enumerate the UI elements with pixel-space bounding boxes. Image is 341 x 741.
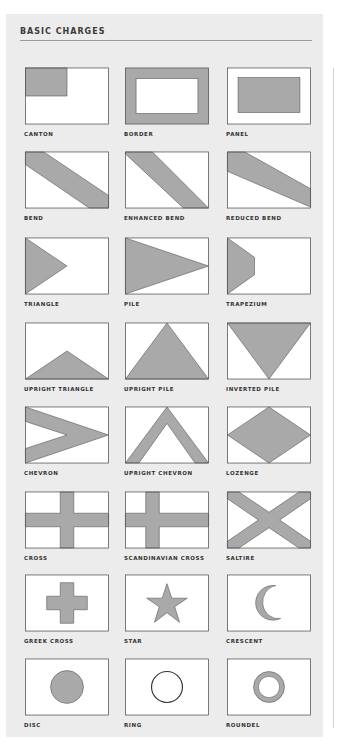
canton-flag-icon — [24, 67, 110, 125]
scandinavian-cross-flag-icon — [124, 491, 210, 549]
charge-label: INVERTED PILE — [226, 386, 314, 392]
charge-upright-triangle: UPRIGHT TRIANGLE — [24, 322, 112, 392]
charge-border: BORDER — [124, 67, 212, 137]
charge-cross: CROSS — [24, 491, 112, 561]
charge-label: PILE — [124, 301, 212, 307]
charge-label: UPRIGHT TRIANGLE — [24, 386, 112, 392]
charge-label: SALTIRE — [226, 555, 314, 561]
charge-star: STAR — [124, 574, 212, 644]
charge-label: CHEVRON — [24, 470, 112, 476]
lozenge-flag-icon — [226, 406, 312, 464]
cross-flag-icon — [24, 491, 110, 549]
charge-bend: BEND — [24, 151, 112, 221]
charge-upright-pile: UPRIGHT PILE — [124, 322, 212, 392]
charge-label: SCANDINAVIAN CROSS — [124, 555, 212, 561]
charge-label: DISC — [24, 722, 112, 728]
charge-canton: CANTON — [24, 67, 112, 137]
title-divider — [20, 40, 312, 41]
charge-label: PANEL — [226, 131, 314, 137]
bend-flag-icon — [24, 151, 110, 209]
charge-label: TRIANGLE — [24, 301, 112, 307]
charge-label: CANTON — [24, 131, 112, 137]
charge-label: UPRIGHT PILE — [124, 386, 212, 392]
panel-flag-icon — [226, 67, 312, 125]
reduced-bend-flag-icon — [226, 151, 312, 209]
charge-label: LOZENGE — [226, 470, 314, 476]
charge-lozenge: LOZENGE — [226, 406, 314, 476]
upright-chevron-flag-icon — [124, 406, 210, 464]
charge-ring: RING — [124, 658, 212, 728]
charge-panel: PANEL — [226, 67, 314, 137]
disc-flag-icon — [24, 658, 110, 716]
charge-inverted-pile: INVERTED PILE — [226, 322, 314, 392]
charge-disc: DISC — [24, 658, 112, 728]
greek-cross-flag-icon — [24, 574, 110, 632]
charge-label: ROUNDEL — [226, 722, 314, 728]
section-title: BASIC CHARGES — [20, 27, 105, 36]
charge-trapezium: TRAPEZIUM — [226, 237, 314, 307]
charge-triangle: TRIANGLE — [24, 237, 112, 307]
charge-label: CROSS — [24, 555, 112, 561]
charge-label: UPRIGHT CHEVRON — [124, 470, 212, 476]
charge-greek-cross: GREEK CROSS — [24, 574, 112, 644]
charge-saltire: SALTIRE — [226, 491, 314, 561]
upright-triangle-flag-icon — [24, 322, 110, 380]
saltire-flag-icon — [226, 491, 312, 549]
charge-label: STAR — [124, 638, 212, 644]
pile-flag-icon — [124, 237, 210, 295]
charge-label: RING — [124, 722, 212, 728]
charge-scandinavian-cross: SCANDINAVIAN CROSS — [124, 491, 212, 561]
star-flag-icon — [124, 574, 210, 632]
page-edge-line — [333, 68, 334, 728]
charge-crescent: CRESCENT — [226, 574, 314, 644]
charge-enhanced-bend: ENHANCED BEND — [124, 151, 212, 221]
charge-label: BORDER — [124, 131, 212, 137]
crescent-flag-icon — [226, 574, 312, 632]
charge-reduced-bend: REDUCED BEND — [226, 151, 314, 221]
charge-chevron: CHEVRON — [24, 406, 112, 476]
trapezium-flag-icon — [226, 237, 312, 295]
charge-label: BEND — [24, 215, 112, 221]
charge-label: ENHANCED BEND — [124, 215, 212, 221]
border-flag-icon — [124, 67, 210, 125]
roundel-flag-icon — [226, 658, 312, 716]
charge-roundel: ROUNDEL — [226, 658, 314, 728]
triangle-flag-icon — [24, 237, 110, 295]
charge-label: TRAPEZIUM — [226, 301, 314, 307]
charge-label: REDUCED BEND — [226, 215, 314, 221]
charge-label: GREEK CROSS — [24, 638, 112, 644]
charge-pile: PILE — [124, 237, 212, 307]
chevron-flag-icon — [24, 406, 110, 464]
charge-upright-chevron: UPRIGHT CHEVRON — [124, 406, 212, 476]
ring-flag-icon — [124, 658, 210, 716]
inverted-pile-flag-icon — [226, 322, 312, 380]
upright-pile-flag-icon — [124, 322, 210, 380]
enhanced-bend-flag-icon — [124, 151, 210, 209]
charge-label: CRESCENT — [226, 638, 314, 644]
